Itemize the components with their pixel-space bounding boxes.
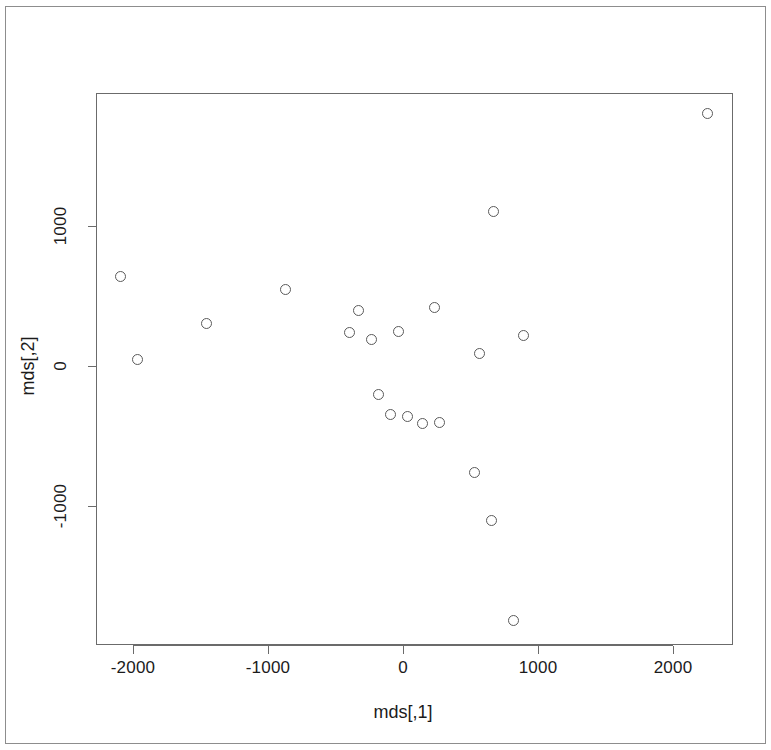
x-tick-mark <box>133 646 134 654</box>
data-point <box>393 326 404 337</box>
y-axis-line <box>96 226 97 506</box>
y-tick-mark <box>88 506 96 507</box>
data-point <box>280 284 291 295</box>
figure-page: -2000-1000010002000 10000-1000 mds[,1] m… <box>0 0 771 750</box>
y-tick-mark <box>88 366 96 367</box>
y-tick-label: 0 <box>51 361 71 371</box>
data-point <box>702 108 713 119</box>
data-point <box>434 417 445 428</box>
y-axis-title: mds[,2] <box>18 336 39 395</box>
x-tick-mark <box>403 646 404 654</box>
data-point <box>486 515 497 526</box>
x-axis-title: mds[,1] <box>373 702 432 723</box>
data-point <box>385 409 396 420</box>
x-tick-label: -2000 <box>111 658 155 678</box>
x-tick-label: -1000 <box>246 658 290 678</box>
data-point <box>366 334 377 345</box>
x-tick-label: 2000 <box>654 658 693 678</box>
y-tick-label: 1000 <box>51 207 71 246</box>
y-tick-mark <box>88 226 96 227</box>
data-point <box>488 206 499 217</box>
data-point <box>518 330 529 341</box>
x-tick-mark <box>673 646 674 654</box>
x-tick-mark <box>538 646 539 654</box>
y-tick-label: -1000 <box>51 484 71 528</box>
data-point <box>373 389 384 400</box>
data-point <box>344 327 355 338</box>
plot-frame <box>96 93 733 645</box>
x-tick-label: 0 <box>398 658 408 678</box>
x-tick-mark <box>268 646 269 654</box>
scatter-plot: -2000-1000010002000 10000-1000 mds[,1] m… <box>0 0 771 750</box>
data-point <box>201 318 212 329</box>
x-tick-label: 1000 <box>519 658 558 678</box>
data-point <box>429 302 440 313</box>
